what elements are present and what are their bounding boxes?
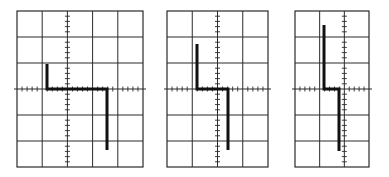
figure: [0, 0, 389, 177]
waveform-trace: [197, 44, 228, 150]
oscilloscope-figure: [0, 0, 389, 177]
waveform-trace: [47, 64, 107, 150]
graticule-2: [164, 11, 271, 167]
waveform-trace: [324, 25, 339, 151]
graticule-3: [292, 11, 372, 167]
graticule-1: [14, 11, 146, 167]
